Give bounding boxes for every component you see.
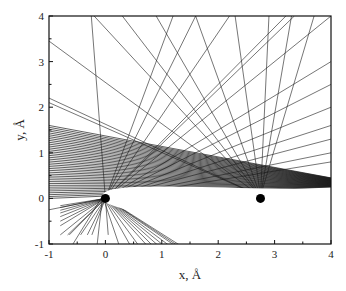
tick-label: 0 — [39, 192, 45, 204]
tick-label: 2 — [39, 101, 45, 113]
tick-label: -1 — [35, 238, 44, 250]
tick-label: 2 — [215, 248, 221, 260]
tick-label: 4 — [328, 248, 334, 260]
y-axis-title: y, Å — [12, 119, 27, 141]
shadow-region — [102, 186, 331, 244]
tick-label: 1 — [39, 147, 45, 159]
tick-label: -1 — [44, 248, 53, 260]
x-axis-title: x, Å — [179, 267, 202, 282]
atom-marker — [256, 194, 265, 203]
trajectory-chart: -101234-101234 x, Å y, Å — [0, 0, 346, 291]
tick-label: 0 — [103, 248, 109, 260]
trajectory-line — [49, 198, 105, 209]
tick-label: 4 — [39, 10, 45, 22]
atom-marker — [101, 194, 110, 203]
tick-label: 1 — [159, 248, 165, 260]
tick-label: 3 — [39, 56, 45, 68]
trajectory-line — [49, 125, 331, 177]
tick-label: 3 — [272, 248, 278, 260]
